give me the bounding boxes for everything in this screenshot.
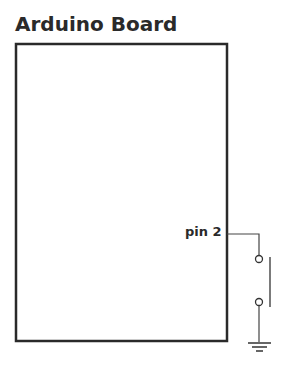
circuit-diagram xyxy=(0,0,285,367)
pushbutton-switch xyxy=(256,256,271,308)
arduino-board xyxy=(16,44,227,341)
ground-icon xyxy=(248,343,271,351)
pin-2-label: pin 2 xyxy=(185,224,222,239)
pin2-wire xyxy=(227,234,259,255)
